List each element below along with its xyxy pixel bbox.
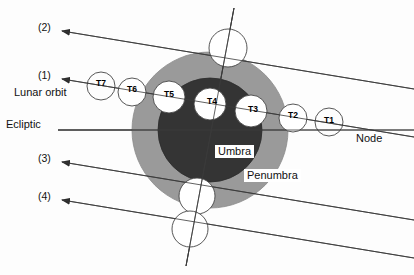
trajectory-line-4-overlay: [62, 200, 414, 258]
node-label: Node: [356, 133, 382, 144]
callout-label-1: (1): [38, 70, 51, 81]
callout-label-4: (4): [38, 191, 51, 202]
moon-position-T2: [279, 104, 307, 132]
moon-position-T4: [194, 88, 226, 120]
moon-position-T3: [235, 95, 267, 127]
moon-position-T7: [87, 72, 115, 100]
callout-label-2: (2): [38, 22, 51, 33]
moon-top-disc: [209, 29, 247, 67]
ecliptic-label: Ecliptic: [6, 119, 41, 130]
callout-label-3: (3): [38, 153, 51, 164]
umbra-label: Umbra: [215, 145, 254, 158]
lunar-orbit-label: Lunar orbit: [14, 87, 67, 98]
eclipse-geometry-canvas: [0, 0, 414, 275]
penumbra-label: Penumbra: [244, 169, 301, 182]
moon-position-T1: [315, 108, 343, 136]
moon-bottom-disc-2: [172, 211, 208, 247]
eclipse-diagram: (2) (1) (3) (4) Lunar orbit Ecliptic Nod…: [0, 0, 414, 275]
